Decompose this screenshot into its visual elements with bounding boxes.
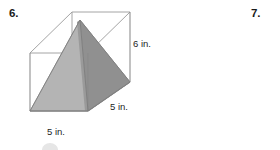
dimension-label-depth: 5 in. — [110, 101, 128, 112]
dimension-label-width: 5 in. — [47, 126, 65, 137]
worksheet-page: 6. 7. — [0, 0, 280, 150]
clipped-bottom-glyph — [42, 143, 58, 150]
prism-with-inscribed-pyramid-figure — [0, 0, 280, 150]
dimension-label-height: 6 in. — [133, 38, 151, 49]
